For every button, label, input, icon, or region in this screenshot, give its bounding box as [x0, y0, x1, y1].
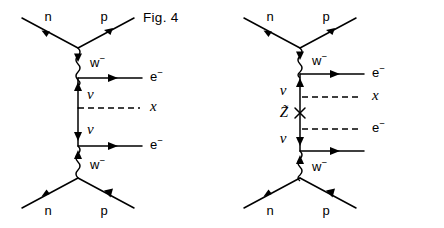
- label-n-in-bottom: n: [44, 203, 51, 218]
- svg-text:e−: e−: [372, 118, 385, 136]
- label-zino-propagator: Z̃: [280, 104, 289, 120]
- label-x-insertion: x: [149, 98, 157, 114]
- label-electron-lower: e−: [150, 135, 163, 153]
- feynman-diagram-fig4: n p n p w− w− ν ν e− x e−: [0, 0, 222, 228]
- label-n-in-top: n: [266, 9, 273, 24]
- label-electron-upper: e−: [372, 63, 385, 81]
- label-p-out-bottom: p: [322, 203, 329, 218]
- svg-text:w−: w−: [89, 155, 105, 173]
- svg-text:w−: w−: [311, 51, 327, 69]
- line-neutrino-upper: [74, 78, 82, 108]
- line-electron-plain: [300, 147, 364, 155]
- label-p-out-top: p: [322, 9, 329, 24]
- svg-text:e−: e−: [372, 63, 385, 81]
- label-n-in-bottom: n: [266, 203, 273, 218]
- line-neutrino-lower: [296, 113, 304, 151]
- svg-text:w−: w−: [89, 53, 105, 71]
- line-w-boson-lower: [74, 146, 82, 178]
- label-neutrino-lower: ν: [280, 130, 287, 146]
- figure-panel-fig4: n p n p w− w− ν ν e− x e− Fig. 4: [0, 0, 222, 228]
- label-neutrino-lower: ν: [87, 121, 94, 137]
- label-w-boson-upper: w−: [89, 53, 105, 71]
- svg-text:e−: e−: [150, 135, 163, 153]
- svg-text:w−: w−: [311, 157, 327, 175]
- label-electron-dashed: e−: [372, 118, 385, 136]
- label-n-in-top: n: [44, 9, 51, 24]
- label-neutrino-upper: ν: [280, 82, 287, 98]
- figure-panel-fig5: n p n p w− w− ν Z̃ ν e− x e− Fig. 5: [222, 0, 444, 228]
- line-electron-upper: [300, 70, 364, 78]
- label-w-boson-lower: w−: [311, 157, 327, 175]
- label-p-out-bottom: p: [100, 203, 107, 218]
- label-p-out-top: p: [100, 9, 107, 24]
- label-w-boson-lower: w−: [89, 155, 105, 173]
- line-w-boson-lower: [296, 151, 304, 181]
- line-electron-upper: [78, 74, 142, 82]
- figure-sheet: n p n p w− w− ν ν e− x e− Fig. 4: [0, 0, 444, 228]
- line-neutrino-lower: [74, 108, 82, 146]
- fig4-caption: Fig. 4: [143, 10, 179, 25]
- line-electron-lower: [78, 142, 142, 150]
- label-w-boson-upper: w−: [311, 51, 327, 69]
- svg-text:e−: e−: [150, 67, 163, 85]
- label-electron-upper: e−: [150, 67, 163, 85]
- label-x-insertion: x: [371, 87, 379, 103]
- label-neutrino-upper: ν: [87, 86, 94, 102]
- line-neutrino-upper: [296, 74, 304, 113]
- feynman-diagram-fig5: n p n p w− w− ν Z̃ ν e− x e−: [222, 0, 444, 228]
